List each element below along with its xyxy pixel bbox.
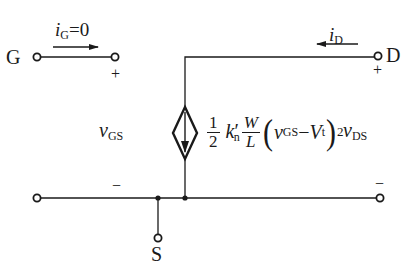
vgs-plus-sign: +	[111, 66, 120, 82]
kn-prime: k′n	[226, 120, 240, 145]
gate-return-terminal[interactable]	[33, 194, 40, 201]
vds-plus-sign: +	[373, 62, 382, 78]
close-paren: )	[326, 112, 336, 153]
vds-label: vDS	[343, 120, 367, 142]
gate-terminal[interactable]	[33, 53, 40, 60]
one-half-fraction: 1 2	[207, 114, 220, 151]
vgs-minus-sign: −	[112, 178, 121, 194]
gate-internal-terminal[interactable]	[111, 53, 118, 60]
junction-dot-current-source	[182, 195, 187, 200]
drain-return-terminal[interactable]	[376, 194, 383, 201]
vgs-label: vGS	[99, 120, 123, 142]
source-terminal[interactable]	[154, 234, 161, 241]
drain-terminal[interactable]	[374, 52, 381, 59]
vds-minus-sign: −	[375, 176, 384, 192]
drain-label: D	[386, 45, 400, 65]
w-over-l-fraction: W L	[242, 114, 260, 151]
drain-current-label: iD	[329, 25, 343, 46]
gate-label: G	[6, 47, 20, 67]
source-label: S	[151, 244, 162, 264]
current-source-expression: 1 2 k′n W L ( vGS − Vt )2	[205, 106, 344, 158]
open-paren: (	[263, 112, 273, 153]
gate-current-label: iG=0	[55, 20, 89, 41]
